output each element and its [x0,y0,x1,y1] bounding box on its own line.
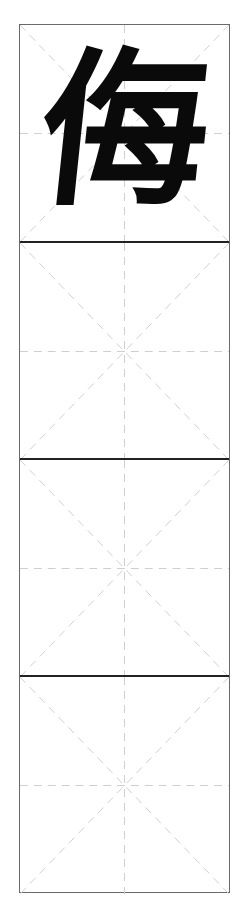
practice-cell-1: 侮 [20,25,229,242]
calligraphy-character [9,239,241,456]
practice-cell-3 [20,458,229,677]
practice-cell-4 [20,675,229,894]
calligraphy-character: 侮 [9,21,241,238]
practice-sheet: 侮 [19,24,230,893]
calligraphy-character [9,456,241,673]
practice-cell-2 [20,241,229,460]
calligraphy-character [9,673,241,890]
